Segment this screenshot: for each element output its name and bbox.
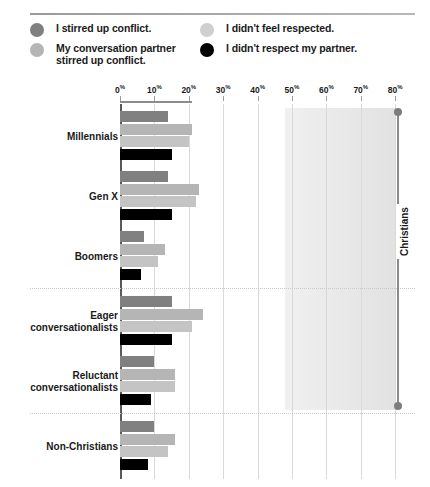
bar-group: Gen X: [0, 170, 430, 224]
bracket-endpoint-dot-top: [394, 108, 402, 116]
group-separator: [30, 413, 415, 414]
bar: [120, 209, 172, 220]
bar: [120, 421, 154, 432]
x-axis-tick-label: 0%: [115, 84, 125, 95]
bar: [120, 149, 172, 160]
circle-swatch-icon: [200, 23, 214, 37]
x-axis-tick-mark: [361, 96, 362, 101]
bar-chart-plot-area: 0%10%20%30%40%50%60%70%80% MillennialsGe…: [0, 84, 430, 487]
bar-group: Boomers: [0, 230, 430, 284]
bar: [120, 256, 158, 267]
chart-legend: I stirred up conflict. My conversation p…: [0, 22, 430, 80]
category-label: Boomers: [0, 251, 118, 263]
bar: [120, 244, 165, 255]
x-axis-tick-label: 40%: [250, 84, 265, 95]
bar: [120, 381, 175, 392]
bar: [120, 309, 203, 320]
bracket-endpoint-dot-bottom: [394, 402, 402, 410]
bar: [120, 136, 189, 147]
legend-column-right: I didn't feel respected. I didn't respec…: [200, 22, 420, 61]
category-label: Millennials: [0, 131, 118, 143]
bar-group: Non-Christians: [0, 420, 430, 474]
x-axis-tick-label: 50%: [285, 84, 300, 95]
x-axis-tick-mark: [292, 96, 293, 101]
circle-swatch-icon: [30, 43, 44, 57]
category-label: Non-Christians: [0, 441, 118, 453]
bar: [120, 321, 192, 332]
category-label: Eager conversationalists: [0, 310, 118, 334]
legend-item-didnt-feel-respected: I didn't feel respected.: [200, 22, 420, 35]
x-axis-tick-label: 10%: [147, 84, 162, 95]
x-axis-tick-mark: [223, 96, 224, 101]
legend-item-label: I didn't feel respected.: [226, 22, 334, 34]
circle-swatch-icon: [200, 43, 214, 57]
x-axis-tick-label: 30%: [216, 84, 231, 95]
x-axis-tick-label: 70%: [353, 84, 368, 95]
group-separator: [30, 288, 415, 289]
legend-item-label: I didn't respect my partner.: [226, 42, 357, 54]
bar: [120, 269, 141, 280]
legend-item-partner-stirred-up-conflict: My conversation partner stirred up confl…: [30, 42, 200, 67]
bar: [120, 434, 175, 445]
legend-item-label: I stirred up conflict.: [56, 22, 151, 34]
category-label: Reluctant conversationalists: [0, 370, 118, 394]
x-axis-tick-label: 20%: [181, 84, 196, 95]
bracket-label: Christians: [397, 204, 412, 259]
bar: [120, 111, 168, 122]
bar: [120, 196, 196, 207]
bar: [120, 171, 168, 182]
bar-group: Millennials: [0, 110, 430, 164]
bar: [120, 446, 168, 457]
x-axis-tick-label: 80%: [388, 84, 403, 95]
header-divider: [30, 13, 415, 15]
bar: [120, 394, 151, 405]
circle-swatch-icon: [30, 23, 44, 37]
bracket-line: [397, 112, 399, 406]
bar: [120, 296, 172, 307]
bar: [120, 369, 175, 380]
category-label: Gen X: [0, 191, 118, 203]
x-axis-tick-label: 60%: [319, 84, 334, 95]
legend-item-label: My conversation partner stirred up confl…: [56, 42, 176, 67]
bar: [120, 459, 148, 470]
bar: [120, 231, 144, 242]
legend-item-didnt-respect-partner: I didn't respect my partner.: [200, 42, 420, 55]
bar: [120, 184, 199, 195]
bar-group: Eager conversationalists: [0, 295, 430, 349]
bar: [120, 334, 172, 345]
legend-column-left: I stirred up conflict. My conversation p…: [30, 22, 200, 74]
bar-group: Reluctant conversationalists: [0, 355, 430, 409]
x-axis-tick-mark: [326, 96, 327, 101]
x-axis-baseline: [120, 101, 192, 103]
x-axis-tick-mark: [395, 96, 396, 101]
bar: [120, 356, 154, 367]
x-axis-tick-mark: [258, 96, 259, 101]
legend-item-stirred-up-conflict: I stirred up conflict.: [30, 22, 200, 35]
bar: [120, 124, 192, 135]
